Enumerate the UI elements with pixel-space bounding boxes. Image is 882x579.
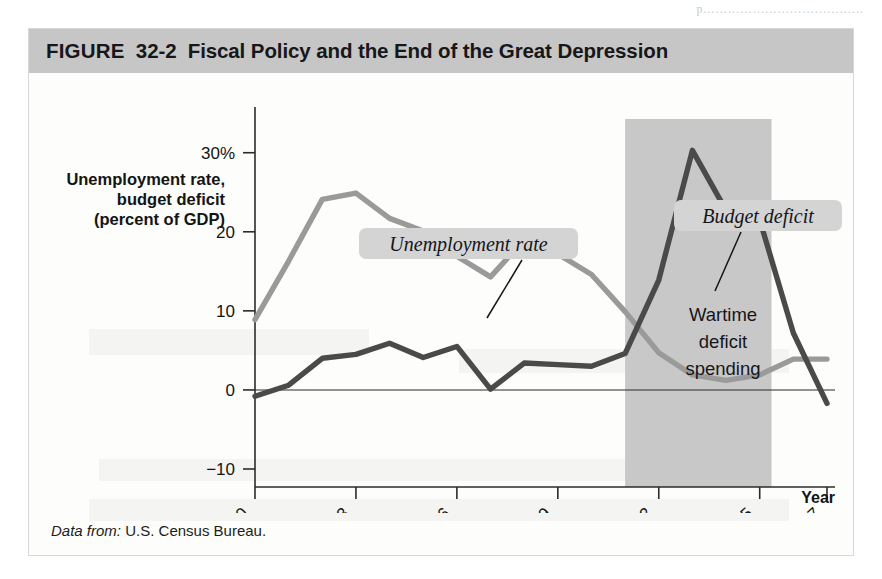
x-tick-label: 1942 — [615, 504, 656, 513]
source-text: U.S. Census Bureau. — [125, 522, 266, 539]
x-tick-label: 1939 — [514, 504, 555, 513]
figure-number: 32-2 — [136, 39, 177, 62]
y-axis-title-line-3: (percent of GDP) — [94, 210, 225, 228]
y-tick-label: −10 — [206, 460, 235, 479]
figure-card: FIGURE 32-2 Fiscal Policy and the End of… — [28, 28, 854, 556]
y-tick-label: 30% — [201, 144, 235, 163]
figure-title-main: Fiscal Policy and the End of the Great D… — [188, 39, 668, 62]
y-axis-title-line-1: Unemployment rate, — [66, 170, 225, 188]
x-tick-label: 1936 — [413, 504, 454, 513]
unemployment-callout-text: Unemployment rate — [389, 233, 547, 256]
x-tick-label: 1945 — [716, 504, 757, 513]
wartime-band-label-line-2: deficit — [699, 331, 747, 352]
y-tick-label: 0 — [226, 381, 235, 400]
wartime-band-label-line-1: Wartime — [689, 304, 757, 325]
y-axis-title: Unemployment rate, budget deficit (perce… — [66, 170, 225, 228]
x-axis-title: Year — [801, 489, 835, 506]
page-bleed-text: p………………………………… — [344, 2, 864, 22]
source-label: Data from: — [51, 522, 121, 539]
unemployment-callout-leader-line — [487, 260, 522, 318]
x-tick-label: 1930 — [211, 504, 252, 513]
y-tick-label: 10 — [216, 302, 235, 321]
figure-title: FIGURE 32-2 Fiscal Policy and the End of… — [29, 39, 668, 63]
figure-kicker: FIGURE — [46, 39, 125, 62]
x-axis-ticks: 1930193319361939194219451947 — [211, 487, 827, 513]
line-chart: −100102030% 1930193319361939194219451947… — [29, 73, 855, 513]
figure-title-bar: FIGURE 32-2 Fiscal Policy and the End of… — [29, 29, 853, 73]
budget-deficit-callout-text: Budget deficit — [702, 205, 814, 228]
x-tick-label: 1933 — [312, 504, 353, 513]
y-axis-title-line-2: budget deficit — [117, 190, 226, 208]
wartime-band-label-line-3: spending — [685, 358, 760, 379]
chart-plot-area: −100102030% 1930193319361939194219451947… — [29, 73, 855, 513]
source-note: Data from: U.S. Census Bureau. — [51, 522, 266, 539]
